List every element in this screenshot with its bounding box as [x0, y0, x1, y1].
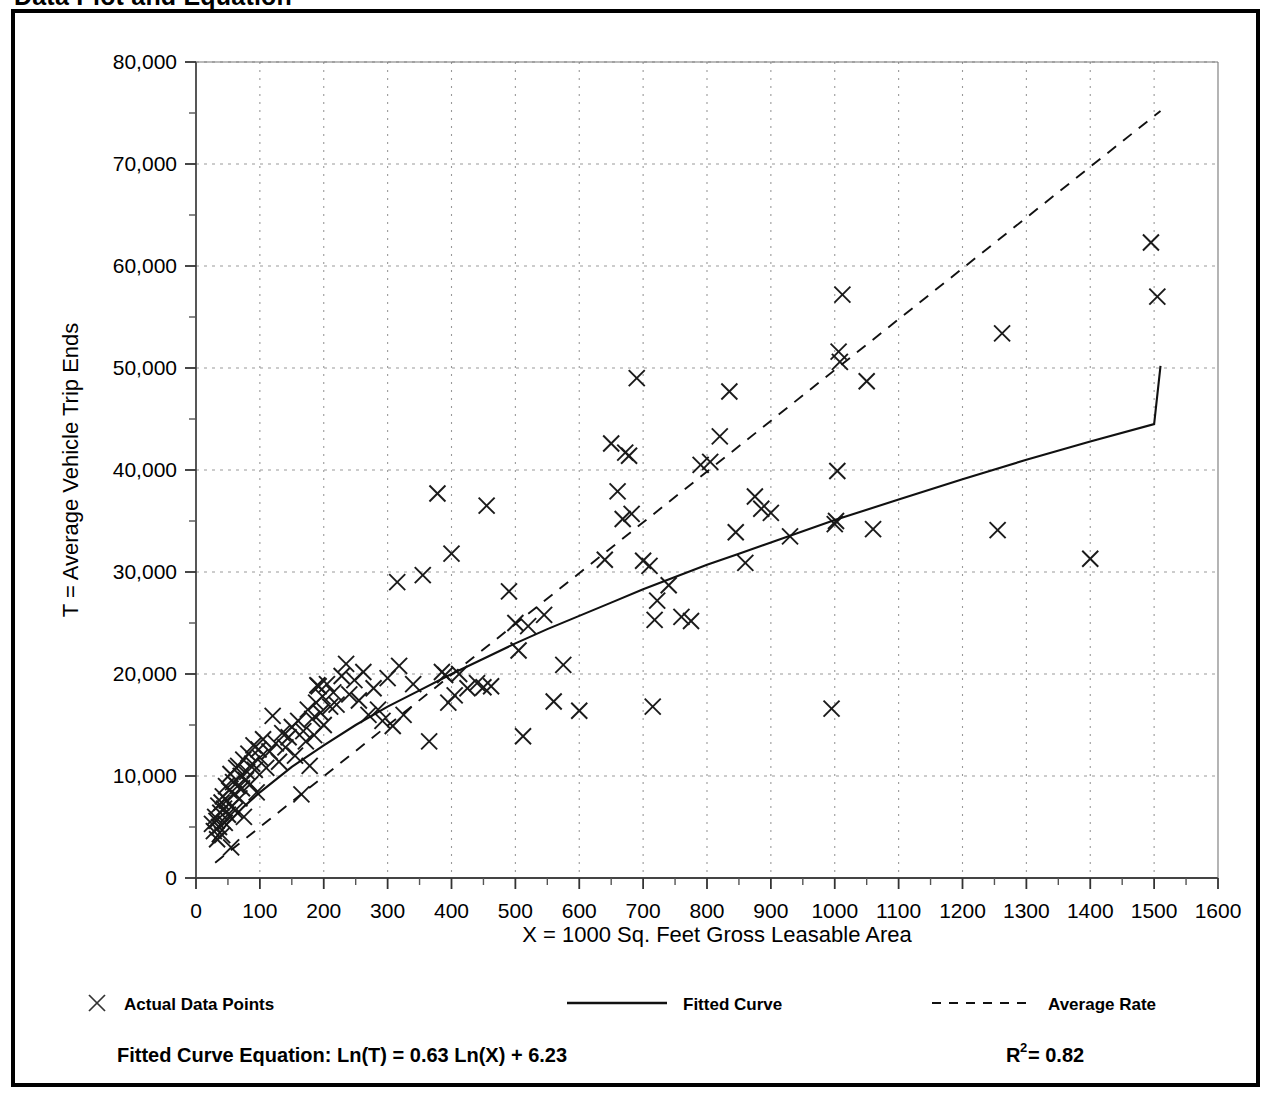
figure-frame [11, 9, 1260, 1087]
